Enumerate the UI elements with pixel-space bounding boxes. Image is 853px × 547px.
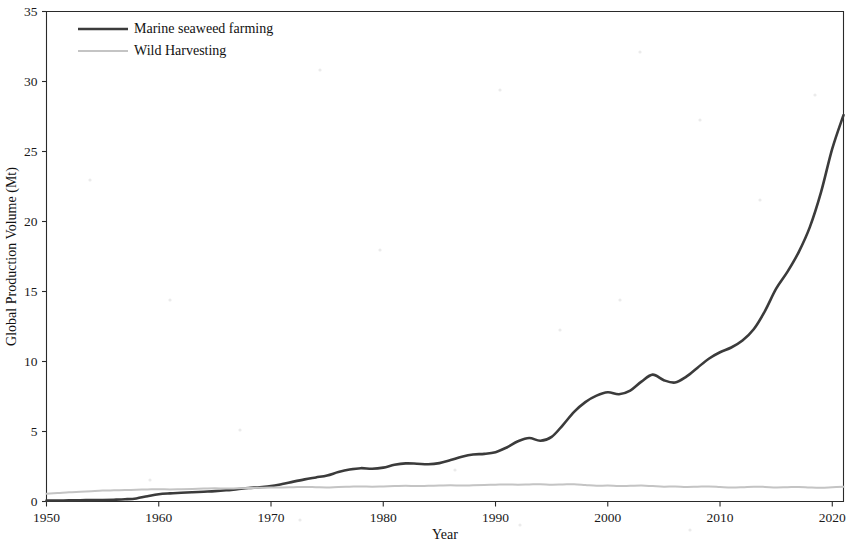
x-axis-title: Year bbox=[432, 527, 458, 542]
legend-label-0: Marine seaweed farming bbox=[134, 21, 273, 36]
speck bbox=[698, 118, 701, 121]
series-group bbox=[47, 115, 844, 501]
speck bbox=[148, 478, 151, 481]
y-tick-label: 25 bbox=[24, 144, 38, 159]
speck bbox=[498, 88, 501, 91]
x-tick-label: 1960 bbox=[145, 510, 172, 525]
y-axis-title: Global Production Volume (Mt) bbox=[4, 167, 20, 346]
y-axis: 05101520253035 bbox=[24, 4, 47, 509]
x-tick-label: 1970 bbox=[258, 510, 285, 525]
x-tick-label: 1950 bbox=[33, 510, 60, 525]
y-tick-label: 5 bbox=[31, 424, 38, 439]
chart-canvas: 0510152025303519501960197019801990200020… bbox=[0, 0, 853, 547]
speck bbox=[453, 468, 456, 471]
speck bbox=[378, 248, 381, 251]
x-tick-label: 2020 bbox=[819, 510, 846, 525]
legend: Marine seaweed farmingWild Harvesting bbox=[78, 21, 273, 58]
y-tick-label: 30 bbox=[24, 74, 38, 89]
speck bbox=[298, 518, 301, 521]
line-chart: 0510152025303519501960197019801990200020… bbox=[0, 0, 853, 547]
axis-frame bbox=[47, 12, 844, 502]
y-tick-label: 10 bbox=[24, 354, 38, 369]
x-tick-label: 2000 bbox=[594, 510, 621, 525]
speck bbox=[518, 523, 521, 526]
y-tick-label: 0 bbox=[31, 494, 38, 509]
series-line-farming bbox=[47, 115, 844, 501]
y-tick-label: 35 bbox=[24, 4, 38, 19]
x-axis: 19501960197019801990200020102020 bbox=[33, 502, 846, 525]
speck bbox=[758, 198, 761, 201]
speck bbox=[168, 298, 171, 301]
x-tick-label: 1980 bbox=[370, 510, 397, 525]
speck bbox=[88, 178, 91, 181]
speck bbox=[688, 528, 691, 531]
y-tick-label: 20 bbox=[24, 214, 38, 229]
speck bbox=[318, 68, 321, 71]
speck bbox=[558, 328, 561, 331]
y-tick-label: 15 bbox=[24, 284, 38, 299]
x-tick-label: 1990 bbox=[482, 510, 509, 525]
speck bbox=[618, 298, 621, 301]
speck bbox=[813, 93, 816, 96]
speck bbox=[638, 50, 641, 53]
speck bbox=[238, 428, 241, 431]
x-tick-label: 2010 bbox=[707, 510, 734, 525]
plot-frame bbox=[47, 12, 844, 502]
legend-label-1: Wild Harvesting bbox=[134, 43, 226, 58]
